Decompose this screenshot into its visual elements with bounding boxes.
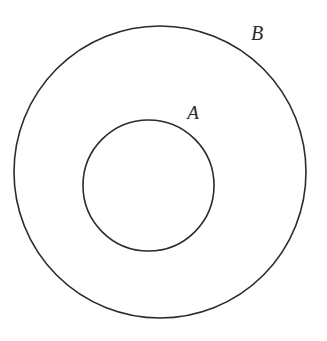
- figure-background: [0, 0, 327, 341]
- inner-set-label-a: A: [185, 102, 199, 123]
- venn-diagram-figure: B A: [0, 0, 327, 341]
- venn-diagram-canvas: B A: [0, 0, 327, 341]
- outer-set-label-b: B: [251, 22, 263, 44]
